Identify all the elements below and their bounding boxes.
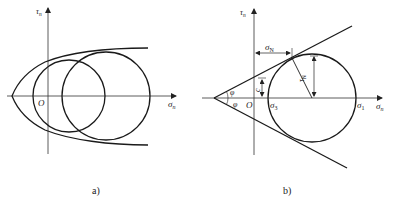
tau-n-label: τN [297, 75, 307, 82]
phi-lower-label: φ [233, 100, 238, 109]
tau-axis-label: τn [36, 7, 42, 17]
sigma-axis-label: σn [376, 101, 383, 112]
sigma-n-label: σN [265, 42, 274, 53]
upper-envelope-line [214, 26, 352, 98]
phi-arc-lower [227, 98, 229, 105]
cohesion-label: c [253, 88, 262, 92]
tau-axis-label: τn [240, 8, 246, 18]
phi-arc-upper [227, 92, 229, 99]
sigma-axis-label: σn [168, 99, 175, 110]
sigma3-label: σ3 [270, 100, 277, 111]
sigma1-label: σ1 [357, 100, 364, 111]
origin-label: O [246, 100, 253, 110]
panel-b: τn σN τN c φ φ O σ3 σ1 σn b) [202, 8, 383, 197]
origin-label: O [38, 98, 45, 108]
caption-b: b) [283, 185, 291, 197]
mohr-diagram-figure: τn O σn a) τn σN τN c φ φ O [0, 0, 395, 205]
phi-upper-label: φ [230, 88, 235, 97]
panel-a: τn O σn a) [7, 7, 176, 197]
caption-a: a) [92, 185, 100, 197]
